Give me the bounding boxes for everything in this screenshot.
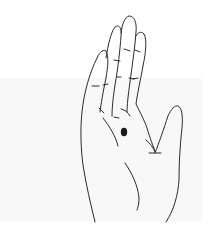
- hand-outline-left: [81, 50, 106, 222]
- crease-palm-top-3: [121, 109, 130, 116]
- hand-illustration: [0, 0, 209, 240]
- middle-finger: [121, 16, 136, 112]
- ring-finger: [106, 26, 121, 116]
- thumb: [155, 106, 182, 222]
- thumb-web-crease: [146, 140, 155, 152]
- crease-index-2: [133, 78, 138, 79]
- crease-palm-top-2: [114, 117, 119, 118]
- illustration-canvas: Line drawing of an open right-hand palm …: [0, 0, 209, 240]
- palm-line-life: [125, 163, 139, 210]
- crease-middle-1: [124, 49, 130, 51]
- crease-pinky-2: [103, 84, 108, 85]
- crease-index-1: [135, 50, 140, 52]
- palm-dot-marker: [121, 128, 127, 136]
- pinky-finger: [100, 51, 108, 112]
- index-finger: [136, 32, 155, 151]
- palm-line-heart: [103, 118, 118, 146]
